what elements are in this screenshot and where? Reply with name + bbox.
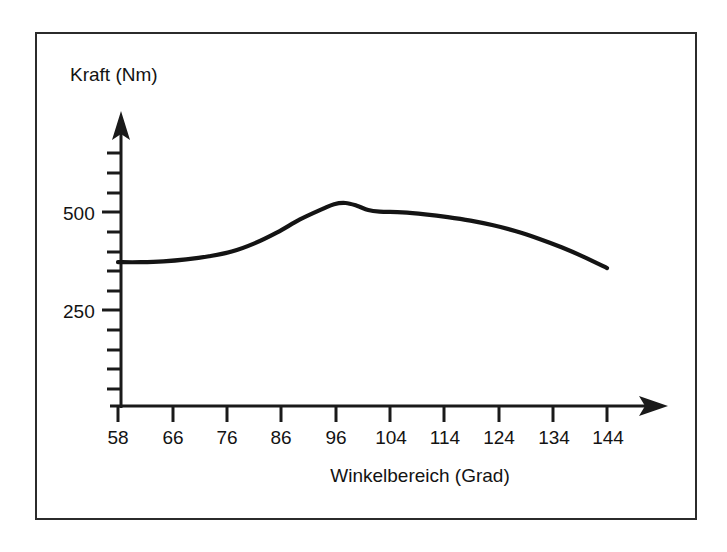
y-tick-label-500: 500 xyxy=(63,203,95,224)
figure-root: Kraft (Nm) 500 250 xyxy=(0,0,727,552)
x-tick-label-58: 58 xyxy=(107,427,128,448)
x-tick-label-144: 144 xyxy=(592,427,624,448)
x-axis-title: Winkelbereich (Grad) xyxy=(330,465,510,486)
data-curve-kraft xyxy=(118,203,607,268)
x-tick-label-76: 76 xyxy=(216,427,237,448)
x-tick-label-134: 134 xyxy=(538,427,570,448)
x-tick-label-66: 66 xyxy=(162,427,183,448)
x-tick-label-124: 124 xyxy=(483,427,515,448)
x-axis-ticks xyxy=(118,406,607,422)
y-tick-label-250: 250 xyxy=(63,301,95,322)
y-axis-title: Kraft (Nm) xyxy=(70,64,158,85)
x-tick-label-96: 96 xyxy=(325,427,346,448)
y-axis-minor-ticks xyxy=(107,153,121,389)
x-axis-tick-labels: 58 66 76 86 96 104 114 124 134 144 xyxy=(107,427,624,448)
x-tick-label-104: 104 xyxy=(375,427,407,448)
x-tick-label-86: 86 xyxy=(270,427,291,448)
chart-canvas: Kraft (Nm) 500 250 xyxy=(0,0,727,552)
x-tick-label-114: 114 xyxy=(430,427,461,448)
